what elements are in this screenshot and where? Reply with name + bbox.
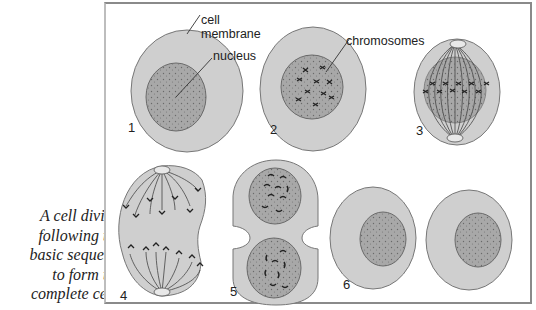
- cell-division-diagram: cell membrane nucleus 1 chromosomes 2: [0, 0, 536, 310]
- stage-4-cell: 4: [119, 166, 206, 303]
- stage-2-cell: chromosomes 2: [260, 27, 425, 151]
- stage-5-cell: 5: [230, 160, 318, 305]
- stage-number: 6: [343, 277, 350, 292]
- cell-membrane-label: cell: [201, 13, 220, 27]
- stage-number: 1: [128, 120, 135, 135]
- chromosomes-label: chromosomes: [346, 34, 425, 48]
- cell-membrane-label: membrane: [201, 27, 261, 41]
- stage-number: 4: [120, 288, 127, 303]
- stage-number: 2: [270, 122, 277, 137]
- stage-number: 3: [416, 123, 423, 138]
- stage-6-cells: 6: [330, 187, 512, 292]
- stage-3-cell: 3: [414, 39, 500, 145]
- nucleus-label: nucleus: [213, 49, 256, 63]
- stage-1-cell: cell membrane nucleus 1: [128, 13, 261, 152]
- stage-number: 5: [230, 284, 237, 299]
